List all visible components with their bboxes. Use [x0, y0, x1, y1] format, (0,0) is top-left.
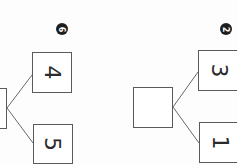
- worksheet-page: 6 4 5 2 3 1: [0, 0, 237, 165]
- part-value: 5: [34, 125, 72, 163]
- bond-2-line-top: [173, 72, 198, 107]
- bond-6-line-top: [7, 75, 32, 108]
- part-value: 1: [201, 123, 238, 163]
- bond-6-line-bottom: [7, 108, 33, 143]
- bond-2-whole-box[interactable]: [133, 87, 173, 128]
- bond-6-part-box-top: 4: [32, 52, 72, 93]
- bond-2-line-bottom: [173, 107, 199, 143]
- bond-6-part-box-bottom: 5: [33, 124, 73, 164]
- problem-number-badge: 6: [56, 23, 68, 35]
- part-value: 4: [33, 54, 72, 92]
- whole-value: [0, 89, 6, 128]
- part-value: 3: [200, 51, 238, 91]
- whole-value: [134, 89, 173, 127]
- problem-number-badge: 2: [220, 23, 232, 35]
- problem-number: 2: [221, 26, 230, 32]
- bond-2-part-box-bottom: 1: [199, 122, 237, 163]
- bond-6-whole-box[interactable]: [0, 88, 7, 129]
- problem-number: 6: [57, 26, 66, 32]
- bond-2-part-box-top: 3: [198, 50, 237, 91]
